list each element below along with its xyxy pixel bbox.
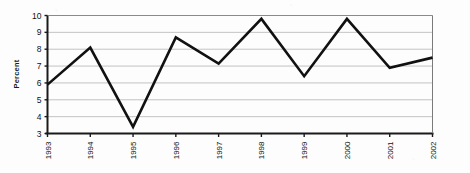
data-series-line [48,19,433,127]
chart-canvas: 345678910Percent199319941995199619971998… [0,0,470,173]
y-tick-label: 8 [37,44,42,54]
x-tick-label: 1997 [215,141,224,159]
y-tick-label: 5 [37,95,42,105]
x-tick-label: 2002 [429,141,438,159]
y-tick-label: 3 [37,129,42,139]
y-tick-label: 4 [37,112,42,122]
gridlines [48,16,433,117]
y-tick-label: 7 [37,61,42,71]
x-tick-label: 1993 [44,141,53,159]
line-chart: 345678910Percent199319941995199619971998… [0,0,470,173]
x-tick-label: 2000 [343,141,352,159]
y-axis-title: Percent [12,59,21,88]
x-tick-label: 1994 [86,141,95,159]
y-tick-label: 6 [37,78,42,88]
y-axis-ticks: 345678910 [32,11,47,139]
y-tick-label: 10 [32,11,42,21]
x-tick-label: 2001 [386,141,395,159]
x-tick-label: 1996 [172,141,181,159]
y-tick-label: 9 [37,27,42,37]
x-axis-ticks: 1993199419951996199719981999200020012002 [44,134,438,160]
x-tick-label: 1998 [257,141,266,159]
x-tick-label: 1999 [300,141,309,159]
x-tick-label: 1995 [129,141,138,159]
